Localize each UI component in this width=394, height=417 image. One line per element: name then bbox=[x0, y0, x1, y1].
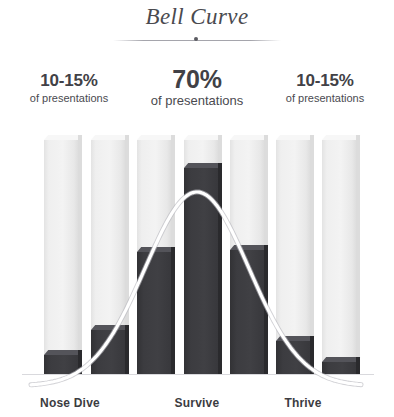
bar-top-bevel bbox=[91, 135, 129, 140]
bar-fill-segment bbox=[184, 168, 218, 374]
bar-fill-segment bbox=[44, 355, 78, 374]
bar-fill-top-bevel bbox=[322, 357, 360, 362]
bar-fill-segment bbox=[91, 330, 125, 374]
bar-fill-segment bbox=[137, 252, 171, 374]
bar-side-face bbox=[78, 135, 82, 374]
bar-column bbox=[133, 135, 171, 383]
bar-column bbox=[226, 135, 264, 383]
bar-fill-side-face bbox=[264, 245, 268, 374]
bar-top-bevel bbox=[184, 135, 222, 140]
bar-fill-side-face bbox=[78, 350, 82, 374]
bar-fill-top-bevel bbox=[276, 336, 314, 341]
bar-fill-top-bevel bbox=[184, 163, 222, 168]
category-label-survive: Survive bbox=[147, 396, 247, 410]
bar-fill-top-bevel bbox=[91, 325, 129, 330]
bar-fill-top-bevel bbox=[44, 350, 82, 355]
bar-empty-segment bbox=[322, 140, 356, 374]
bar-top-bevel bbox=[276, 135, 314, 140]
category-label-nose-dive: Nose Dive bbox=[20, 396, 120, 410]
bar-fill-segment bbox=[276, 341, 310, 374]
bar-fill-top-bevel bbox=[230, 245, 268, 250]
bar-column bbox=[272, 135, 310, 383]
bar-fill-side-face bbox=[125, 325, 129, 374]
bar-column bbox=[40, 135, 78, 383]
bar-fill-side-face bbox=[171, 247, 175, 374]
bar-fill-top-bevel bbox=[137, 247, 175, 252]
bar-side-face bbox=[356, 135, 360, 374]
bar-column bbox=[318, 135, 356, 383]
bar-fill-side-face bbox=[356, 357, 360, 374]
bar-top-bevel bbox=[44, 135, 82, 140]
bar-column bbox=[87, 135, 125, 383]
bar-top-bevel bbox=[230, 135, 268, 140]
bar-fill-segment bbox=[230, 250, 264, 374]
category-label-thrive: Thrive bbox=[253, 396, 353, 410]
bar-fill-side-face bbox=[218, 163, 222, 374]
baseline-axis bbox=[22, 374, 374, 375]
bar-empty-segment bbox=[44, 140, 78, 374]
bar-fill-side-face bbox=[310, 336, 314, 374]
bar-fill-segment bbox=[322, 362, 356, 374]
bar-top-bevel bbox=[322, 135, 360, 140]
bell-curve-chart bbox=[0, 0, 394, 417]
bar-column bbox=[180, 135, 218, 383]
bar-top-bevel bbox=[137, 135, 175, 140]
